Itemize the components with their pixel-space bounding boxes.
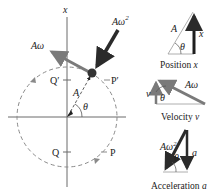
point-label-q: Q [52, 147, 60, 158]
rotation-arrow-icon [94, 158, 100, 164]
velocity-side-label: v [146, 88, 151, 99]
velocity-hyp-arrow [160, 81, 205, 104]
angle-label: θ [83, 101, 88, 112]
point-label-q-prime: Q′ [50, 75, 59, 86]
velocity-panel: Aω v θ Velocity v [146, 79, 205, 122]
acceleration-angle-arc [172, 162, 176, 172]
rotation-arrow-icon [30, 77, 36, 83]
position-panel: A x θ Position x [160, 12, 204, 70]
angle-arc [75, 104, 82, 117]
particle-ball [88, 69, 97, 78]
velocity-caption: Velocity v [161, 112, 200, 122]
radius-label: A [72, 87, 80, 98]
acceleration-panel: Aω2 a θ Acceleration a [151, 130, 207, 191]
velocity-angle-label: θ [160, 92, 165, 103]
position-caption: Position x [160, 60, 199, 70]
reference-circle-diagram: x Q′ Q P′ P A θ Aω Aω2 [8, 4, 129, 187]
position-angle-label: θ [180, 41, 185, 52]
velocity-arrow-label: Aω [30, 40, 44, 51]
position-side-label: x [198, 28, 204, 39]
velocity-hyp-label: Aω [184, 79, 198, 90]
x-axis-label: x [62, 4, 68, 15]
acceleration-angle-label: θ [174, 152, 179, 163]
point-label-p: P [110, 147, 116, 158]
velocity-arrow [52, 52, 91, 73]
point-label-p-prime: P′ [111, 75, 119, 86]
origin-arrowhead-icon [67, 110, 73, 117]
acceleration-side-label: a [192, 147, 197, 158]
shm-reference-circle-figure: x Q′ Q P′ P A θ Aω Aω2 [0, 0, 212, 195]
acceleration-caption: Acceleration a [151, 181, 207, 191]
position-hyp-label: A [170, 23, 178, 34]
acceleration-arrow-label: Aω2 [111, 14, 129, 27]
acceleration-arrow [97, 30, 118, 66]
